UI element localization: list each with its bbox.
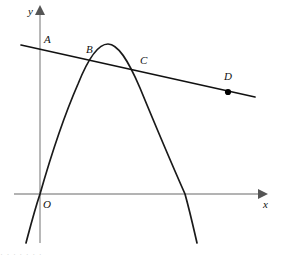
y-axis-arrow-icon xyxy=(35,5,45,15)
x-axis-label: x xyxy=(262,198,268,210)
figure-container: A B C D O x y · · · · · · · xyxy=(0,0,285,260)
geometry-figure: A B C D O x y xyxy=(0,0,285,260)
point-label-B: B xyxy=(86,43,93,55)
point-label-A: A xyxy=(43,33,51,45)
point-marker-D xyxy=(225,89,231,95)
clipped-footer-text: · · · · · · · xyxy=(0,248,285,260)
point-label-C: C xyxy=(140,54,148,66)
parabola-curve xyxy=(26,44,197,243)
y-axis-label: y xyxy=(27,5,33,17)
secant-line-AD xyxy=(21,45,255,97)
origin-label: O xyxy=(43,198,51,210)
point-label-D: D xyxy=(223,70,232,82)
